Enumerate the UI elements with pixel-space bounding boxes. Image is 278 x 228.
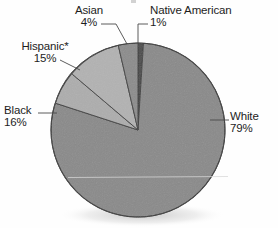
pie-label-native-american-name: Native American [150,4,231,16]
pie-label-black-pct: 16% [4,116,52,128]
pie-label-asian: Asian 4% [62,4,116,29]
pie-label-black-name: Black [4,104,31,116]
pie-label-white: White 79% [230,110,276,135]
pie-label-asian-name: Asian [75,4,103,16]
leader-line-native-american [138,24,148,44]
pie-label-white-pct: 79% [230,122,276,134]
pie-label-hispanic-name: Hispanic* [21,40,68,52]
pie-label-hispanic-pct: 15% [8,52,82,64]
pie-chart-figure: Asian 4% Native American 1% Hispanic* 15… [0,0,278,228]
pie-label-hispanic: Hispanic* 15% [8,40,82,65]
pie-label-white-name: White [230,110,259,122]
pie-label-native-american-pct: 1% [150,16,260,28]
pie-label-native-american: Native American 1% [150,4,260,29]
pie-label-black: Black 16% [4,104,52,129]
pie-label-asian-pct: 4% [62,16,116,28]
